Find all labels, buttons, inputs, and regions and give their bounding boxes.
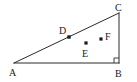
- vertex-label-c: C: [115, 2, 122, 13]
- point-label-d: D: [59, 25, 66, 36]
- point-label-f: F: [105, 31, 111, 42]
- vertex-label-b: B: [115, 68, 122, 79]
- geometry-canvas: A B C D E F: [0, 0, 137, 82]
- point-dot-f: [99, 37, 102, 40]
- right-angle-marker-icon: [114, 58, 119, 63]
- geometry-figure: A B C D E F: [0, 0, 137, 82]
- point-label-e: E: [82, 48, 88, 59]
- edge-ca: [14, 13, 119, 63]
- point-dot-e: [84, 41, 87, 44]
- point-dot-d: [67, 35, 70, 38]
- vertex-label-a: A: [9, 67, 17, 78]
